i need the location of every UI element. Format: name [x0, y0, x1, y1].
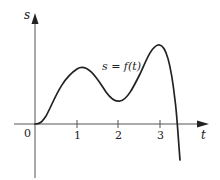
x-axis-arrow-icon [197, 121, 209, 128]
function-label: s = f(t) [102, 60, 141, 73]
y-axis-label: s [24, 8, 30, 22]
tick-3-label: 3 [157, 129, 164, 142]
y-axis-arrow-icon [32, 13, 39, 24]
chart-svg [0, 0, 220, 180]
tick-1-label: 1 [74, 129, 81, 142]
origin-label: 0 [24, 127, 31, 140]
x-axis-label: t [201, 128, 206, 142]
chart-area: s t 0 1 2 3 s = f(t) [0, 0, 220, 180]
tick-2-label: 2 [115, 129, 122, 142]
